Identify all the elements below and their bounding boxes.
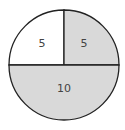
slice-top-right	[64, 10, 119, 65]
slice-label-top-left: 5	[39, 37, 46, 50]
slice-top-left	[9, 10, 64, 65]
pie-chart: 5 5 10	[0, 0, 125, 130]
slice-label-top-right: 5	[81, 37, 88, 50]
slice-label-bottom: 10	[57, 82, 71, 95]
